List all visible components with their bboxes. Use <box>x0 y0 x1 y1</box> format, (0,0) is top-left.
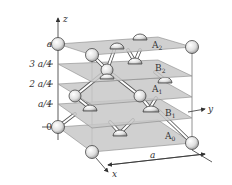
atom-halfsphere <box>133 34 147 40</box>
y-axis-label: y <box>207 104 214 114</box>
atom <box>134 90 146 102</box>
plane-a2 <box>58 37 192 55</box>
z-tick-labels: a 3 a/4 2 a/4 a/4 0 <box>28 39 53 132</box>
diamond-lattice-diagram: z a 3 a/4 2 a/4 a/4 0 <box>0 0 232 185</box>
plane-b2 <box>58 60 192 82</box>
corner-atom <box>186 41 199 54</box>
corner-atom <box>86 146 99 159</box>
atom <box>86 49 99 62</box>
corner-atom <box>186 137 199 150</box>
dimension-a: a <box>108 150 212 165</box>
corner-atom <box>52 121 65 134</box>
atom-halfsphere <box>128 58 142 64</box>
x-axis-label: x <box>112 169 117 179</box>
dimension-label: a <box>150 150 155 160</box>
x-axis: x <box>96 158 117 179</box>
atom <box>69 90 81 102</box>
z-axis-label: z <box>62 14 68 24</box>
corner-atom <box>52 38 65 51</box>
